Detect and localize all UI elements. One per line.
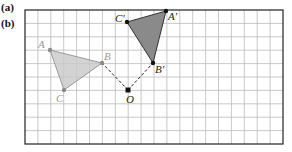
point-a-prime-label: A' — [167, 10, 178, 22]
point-o-label: O — [126, 93, 134, 105]
point-c-prime-marker — [125, 20, 129, 24]
triangle-abc — [50, 50, 102, 90]
point-b-prime-label: B' — [155, 63, 165, 75]
point-o-marker — [126, 88, 131, 93]
point-c-label: C — [56, 92, 64, 104]
point-a-label: A — [37, 38, 45, 50]
point-b-label: B — [104, 50, 111, 62]
point-c-prime-label: C' — [115, 12, 125, 24]
dashed-line-o-b-prime — [128, 63, 153, 90]
point-a-marker — [48, 48, 52, 52]
rotation-diagram: A B C O A' B' C' — [0, 0, 292, 152]
